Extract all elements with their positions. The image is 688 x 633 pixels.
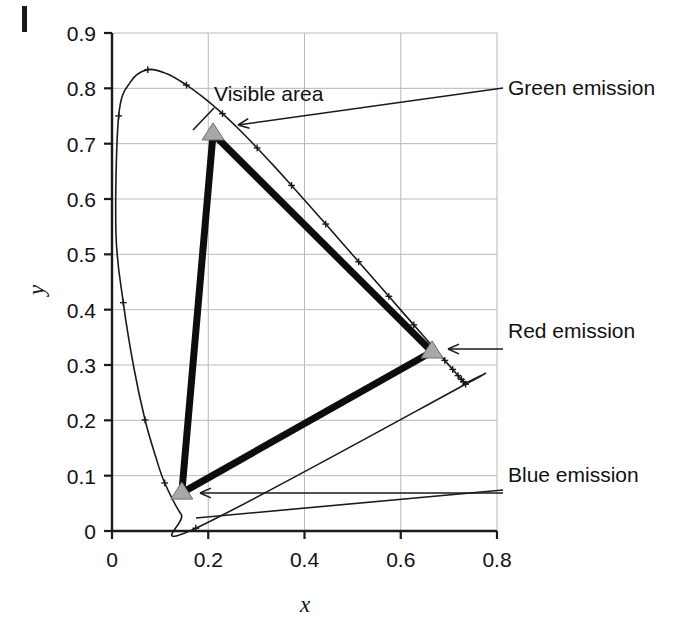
y-tick-label: 0.8 — [67, 77, 96, 100]
x-tick-label: 0.2 — [194, 548, 223, 571]
x-tick-label: 0.4 — [290, 548, 320, 571]
x-axis-title: x — [299, 592, 311, 617]
x-tick-label: 0.6 — [386, 548, 415, 571]
y-tick-label: 0.9 — [67, 22, 96, 45]
y-axis-title: y — [24, 284, 49, 297]
y-tick-label: 0.2 — [67, 409, 96, 432]
y-tick-label: 0.1 — [67, 465, 96, 488]
page-corner-mark — [22, 6, 27, 32]
x-tick-label: 0.8 — [482, 548, 511, 571]
figure-canvas: 00.10.20.30.40.50.60.70.80.9 00.20.40.60… — [0, 0, 688, 633]
annotation-red-emission: Red emission — [508, 319, 635, 342]
x-tick-label: 0 — [106, 548, 118, 571]
y-tick-label: 0.4 — [67, 299, 97, 322]
y-tick-label: 0.6 — [67, 188, 96, 211]
y-tick-label: 0 — [84, 520, 96, 543]
annotation-green-emission: Green emission — [508, 76, 655, 99]
y-tick-label: 0.7 — [67, 133, 96, 156]
x-axis-tick-labels: 00.20.40.60.8 — [106, 548, 511, 571]
annotation-visible-area: Visible area — [214, 82, 324, 105]
y-tick-label: 0.3 — [67, 354, 96, 377]
chromaticity-diagram: 00.10.20.30.40.50.60.70.80.9 00.20.40.60… — [0, 0, 688, 633]
y-tick-label: 0.5 — [67, 243, 96, 266]
y-axis-tick-labels: 00.10.20.30.40.50.60.70.80.9 — [67, 22, 97, 543]
annotation-blue-emission: Blue emission — [508, 463, 639, 486]
